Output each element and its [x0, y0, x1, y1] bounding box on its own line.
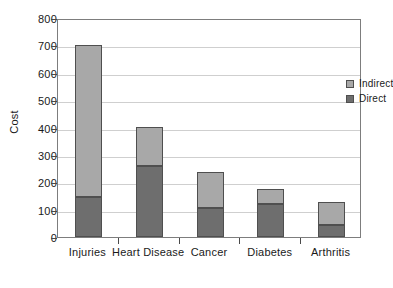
bar-segment-direct [75, 197, 102, 237]
x-axis-tick-mark [179, 238, 180, 244]
plot-area: Indirect Direct [57, 19, 361, 238]
gridline [58, 75, 360, 76]
bar-segment-direct [257, 204, 284, 237]
legend-label-indirect: Indirect [359, 77, 393, 91]
x-axis-tick-label: Arthritis [286, 246, 376, 259]
legend-swatch-indirect-icon [346, 80, 354, 88]
bar-segment-indirect [257, 189, 284, 204]
bar-segment-indirect [318, 202, 345, 224]
gridline [58, 130, 360, 131]
x-axis-tick-mark [239, 238, 240, 244]
bar-segment-indirect [197, 172, 224, 208]
bar-segment-direct [197, 208, 224, 237]
legend-label-direct: Direct [359, 92, 386, 106]
bar-segment-direct [318, 225, 345, 237]
legend-item-direct: Direct [346, 91, 393, 106]
gridline [58, 102, 360, 103]
legend: Indirect Direct [346, 76, 393, 106]
legend-item-indirect: Indirect [346, 76, 393, 91]
x-axis-tick-mark [118, 238, 119, 244]
legend-swatch-direct-icon [346, 95, 354, 103]
y-axis-tick-mark [51, 238, 57, 239]
bar-segment-direct [136, 166, 163, 237]
bar-segment-indirect [136, 127, 163, 167]
gridline [58, 157, 360, 158]
gridline [58, 47, 360, 48]
x-axis-tick-mark [300, 238, 301, 244]
bar-segment-indirect [75, 45, 102, 198]
